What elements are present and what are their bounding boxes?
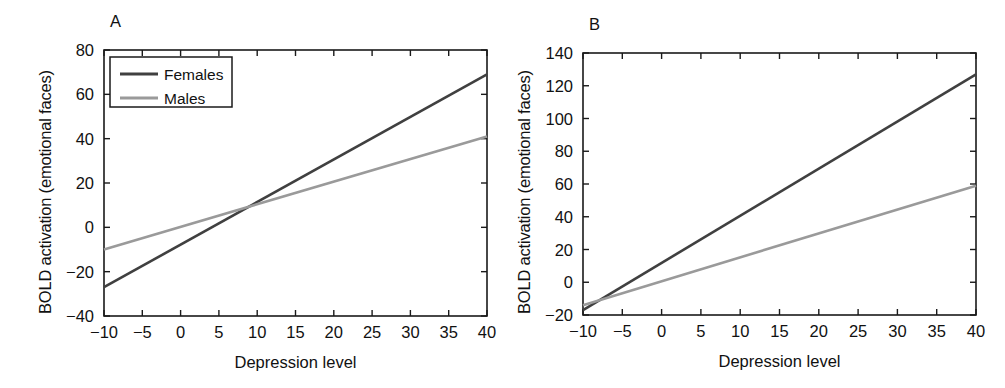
x-axis-label: Depression level <box>235 353 357 371</box>
panel-letter: B <box>589 15 600 33</box>
x-tick-label: −5 <box>613 322 632 340</box>
x-tick-label: 30 <box>888 322 906 340</box>
x-tick-label: 20 <box>325 323 343 341</box>
x-tick-label: 40 <box>967 322 985 340</box>
y-tick-label: 140 <box>545 44 573 62</box>
panel-b-plot: −10−50510152025303540−200204060801001201… <box>479 0 1005 388</box>
panel-a: BOLD activation (emotional faces) −10−50… <box>0 0 502 388</box>
y-tick-label: 40 <box>555 208 573 226</box>
x-tick-label: 25 <box>849 322 867 340</box>
legend-label-females: Females <box>164 66 224 83</box>
x-tick-label: −5 <box>133 323 152 341</box>
x-tick-label: 15 <box>286 323 304 341</box>
y-tick-label: −40 <box>66 307 94 325</box>
x-tick-label: 35 <box>440 323 458 341</box>
y-tick-label: 20 <box>76 174 94 192</box>
y-tick-label: 0 <box>564 273 573 291</box>
y-tick-label: 60 <box>555 175 573 193</box>
figure-canvas: BOLD activation (emotional faces) −10−50… <box>0 0 1005 388</box>
panel-a-plot: −10−50510152025303540−40−20020406080ADep… <box>0 0 502 388</box>
x-tick-label: 20 <box>810 322 828 340</box>
x-tick-label: −10 <box>90 323 118 341</box>
x-tick-label: 5 <box>214 323 223 341</box>
x-tick-label: 0 <box>657 322 666 340</box>
x-tick-label: 10 <box>248 323 266 341</box>
x-tick-label: 15 <box>770 322 788 340</box>
x-tick-label: 5 <box>696 322 705 340</box>
y-tick-label: 80 <box>555 142 573 160</box>
x-tick-label: −10 <box>569 322 597 340</box>
y-tick-label: 60 <box>76 85 94 103</box>
panel-letter: A <box>110 12 121 30</box>
panel-b: BOLD activation (emotional faces) −10−50… <box>479 0 1005 388</box>
y-tick-label: −20 <box>66 263 94 281</box>
x-tick-label: 10 <box>731 322 749 340</box>
y-tick-label: 100 <box>545 110 573 128</box>
x-tick-label: 35 <box>928 322 946 340</box>
y-tick-label: 120 <box>545 77 573 95</box>
x-axis-label: Depression level <box>719 352 841 370</box>
y-tick-label: 80 <box>76 41 94 59</box>
y-tick-label: 40 <box>76 130 94 148</box>
legend-label-males: Males <box>164 90 206 107</box>
x-tick-label: 25 <box>363 323 381 341</box>
y-tick-label: 0 <box>85 218 94 236</box>
y-tick-label: 20 <box>555 241 573 259</box>
x-tick-label: 30 <box>401 323 419 341</box>
y-tick-label: −20 <box>545 306 573 324</box>
x-tick-label: 0 <box>176 323 185 341</box>
